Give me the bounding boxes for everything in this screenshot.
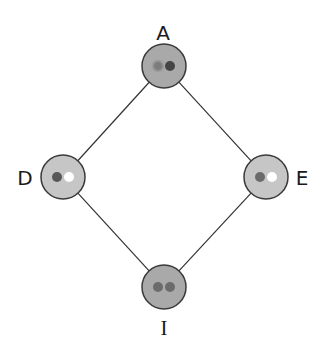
node-label-d: D	[17, 168, 32, 188]
edge-d-i	[78, 193, 149, 271]
edge-e-i	[179, 193, 251, 271]
node-label-i: I	[161, 318, 168, 339]
node-dot-left	[153, 61, 163, 71]
node-dot-right	[64, 172, 74, 182]
node-d	[41, 155, 85, 199]
edge-a-e	[179, 82, 251, 161]
node-a	[142, 44, 186, 88]
node-circle	[142, 265, 186, 309]
node-i	[142, 265, 186, 309]
edges	[78, 82, 251, 271]
node-dot-right	[165, 61, 175, 71]
node-circle	[244, 155, 288, 199]
nodes	[41, 44, 288, 309]
lattice-diagram	[0, 0, 323, 359]
edge-a-d	[78, 82, 149, 160]
node-circle	[41, 155, 85, 199]
node-circle	[142, 44, 186, 88]
node-e	[244, 155, 288, 199]
node-dot-right	[165, 282, 175, 292]
node-label-e: E	[296, 168, 309, 188]
node-dot-left	[255, 172, 265, 182]
node-dot-left	[52, 172, 62, 182]
node-label-a: A	[156, 23, 170, 43]
node-dot-left	[153, 282, 163, 292]
node-dot-right	[267, 172, 277, 182]
